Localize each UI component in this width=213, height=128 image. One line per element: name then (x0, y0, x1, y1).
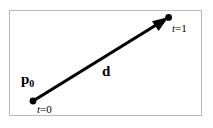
label-parameter-end-value: =1 (175, 22, 187, 34)
label-parameter-start-value: =0 (40, 103, 52, 115)
label-parameter-start: t=0 (37, 104, 52, 115)
label-origin-point-subscript: 0 (29, 78, 34, 89)
label-parameter-end: t=1 (172, 23, 187, 34)
label-direction-vector: d (102, 64, 110, 79)
vector-diagram-figure: p0 d t=0 t=1 (0, 0, 213, 128)
label-origin-point: p0 (21, 72, 34, 89)
